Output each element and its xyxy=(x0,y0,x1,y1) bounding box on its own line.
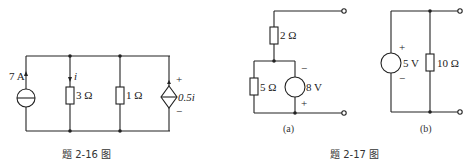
dep-minus-sign: − xyxy=(176,105,182,117)
arrow-up-icon xyxy=(24,71,28,76)
figure-2-16: 7 A i 3 Ω 1 Ω + 0.5i xyxy=(9,54,195,160)
arrow-down-icon xyxy=(68,77,72,82)
current-source-7a xyxy=(17,56,35,131)
resistor-10ohm xyxy=(426,54,434,71)
subfigure-b-label: (b) xyxy=(420,123,432,135)
source-5v-plus: + xyxy=(399,41,405,53)
resistor-2ohm xyxy=(270,27,278,44)
terminal-bottom-a xyxy=(342,111,346,115)
subfigure-a-label: (a) xyxy=(283,123,294,135)
source-8v-plus: + xyxy=(301,97,307,109)
terminal-bottom-b xyxy=(458,110,462,114)
source-8v-minus: − xyxy=(301,62,307,74)
voltage-source-5v xyxy=(381,53,401,73)
source-5v-label: 5 V xyxy=(403,57,419,69)
dep-source-label: 0.5i xyxy=(178,91,195,103)
figure-2-17b: + 5 V − 10 Ω (b) xyxy=(381,9,462,135)
figure-2-17a: 2 Ω 5 Ω − 8 V + (a) xyxy=(250,9,346,135)
dependent-voltage-source xyxy=(161,56,177,131)
resistor-1ohm-label: 1 Ω xyxy=(126,89,142,101)
resistor-5ohm-label: 5 Ω xyxy=(260,81,276,93)
caption-2-16: 题 2-16 图 xyxy=(62,149,111,160)
resistor-2ohm-label: 2 Ω xyxy=(280,29,296,41)
caption-2-17: 题 2-17 图 xyxy=(330,149,379,160)
resistor-3ohm-branch xyxy=(66,54,74,133)
terminal-top-b xyxy=(458,9,462,13)
voltage-source-8v xyxy=(285,77,305,97)
resistor-1ohm-branch xyxy=(116,54,124,133)
dep-plus-sign: + xyxy=(176,73,182,85)
resistor-3ohm-label: 3 Ω xyxy=(76,89,92,101)
source-8v-label: 8 V xyxy=(306,81,322,93)
source-5v-minus: − xyxy=(399,72,405,84)
resistor-10ohm-label: 10 Ω xyxy=(437,57,459,69)
terminal-top-a xyxy=(342,9,346,13)
current-i-label: i xyxy=(74,70,77,82)
current-source-label: 7 A xyxy=(9,70,25,82)
resistor-5ohm xyxy=(250,78,258,95)
